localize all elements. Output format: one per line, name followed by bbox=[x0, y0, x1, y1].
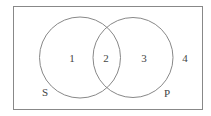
region-label-3: 3 bbox=[141, 52, 147, 64]
set-label-s: S bbox=[42, 86, 48, 98]
region-label-1: 1 bbox=[69, 52, 75, 64]
venn-diagram: 1 2 3 4 S P bbox=[0, 0, 211, 116]
region-label-2: 2 bbox=[103, 52, 109, 64]
region-label-4: 4 bbox=[182, 52, 188, 64]
set-label-p: P bbox=[164, 87, 170, 99]
